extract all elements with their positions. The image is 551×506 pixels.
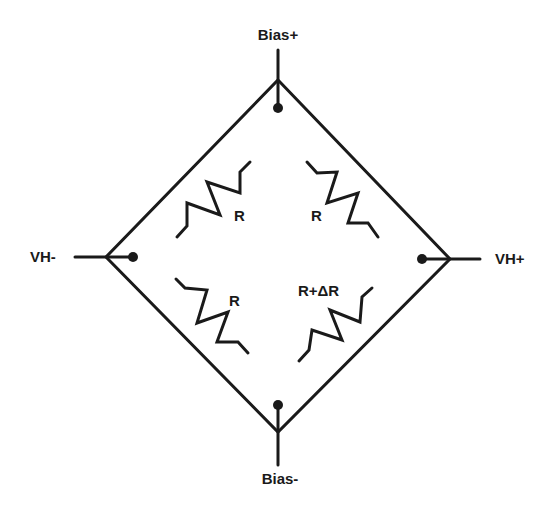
node-dot-bottom: [273, 400, 283, 410]
label-vh-minus: VH-: [30, 248, 56, 265]
label-bias-minus: Bias-: [262, 470, 299, 487]
label-bias-plus: Bias+: [258, 26, 299, 43]
bridge-diagram: Bias+ Bias- VH- VH+ R R R R+ΔR: [0, 0, 551, 506]
label-vh-plus: VH+: [495, 250, 525, 267]
label-resistor-lower-right: R+ΔR: [298, 282, 339, 299]
node-dot-top: [273, 103, 283, 113]
node-dot-right: [417, 254, 427, 264]
label-resistor-upper-right: R: [311, 207, 322, 224]
label-resistor-lower-left: R: [229, 292, 240, 309]
node-dot-left: [128, 252, 138, 262]
label-resistor-upper-left: R: [234, 207, 245, 224]
resistor-lower-left-icon: [176, 279, 248, 353]
bridge-diamond: [106, 80, 450, 432]
